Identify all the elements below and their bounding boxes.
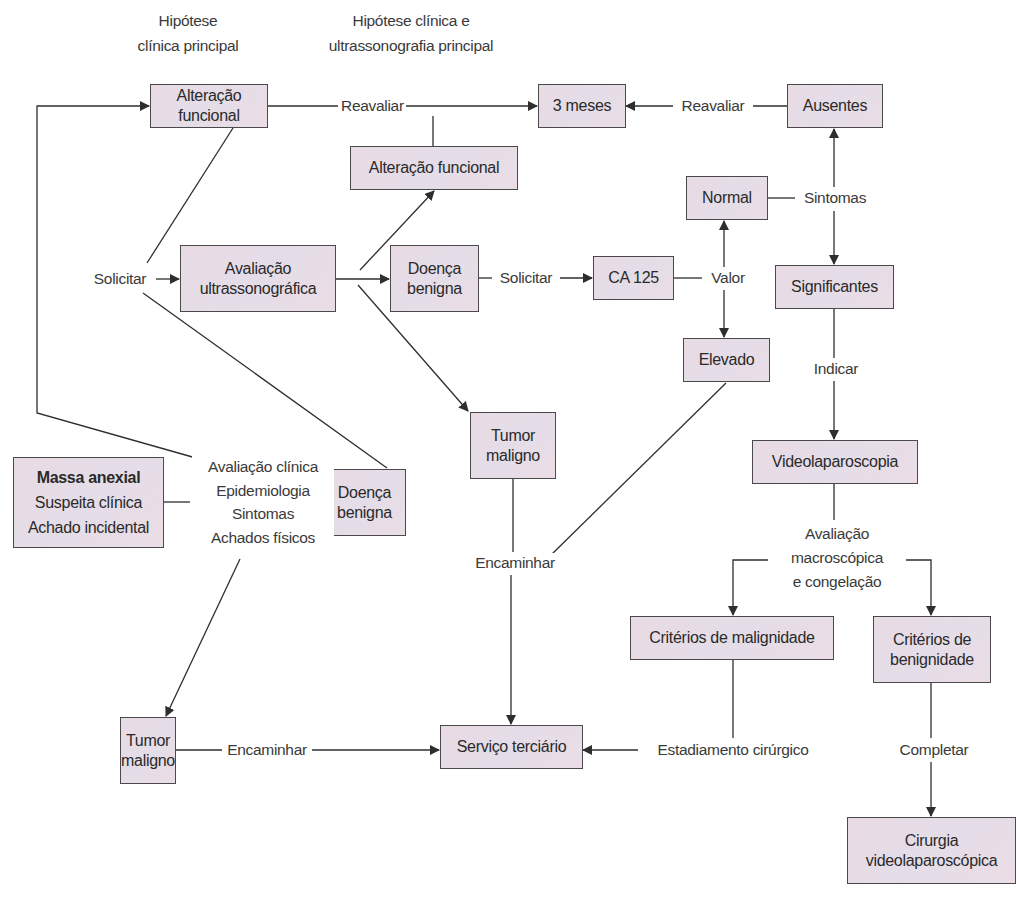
node-videolaparoscopia: Videolaparoscopia [752, 440, 918, 484]
node-ausentes: Ausentes [787, 84, 883, 128]
node-tumor-maligno-clinica: Tumor maligno [120, 717, 176, 784]
massa-anexial-title: Massa anexial [37, 465, 141, 490]
label-estadiamento-cirurgico: Estadiamento cirúrgico [638, 740, 828, 760]
node-doenca-benigna-us: Doença benigna [390, 245, 479, 312]
node-massa-anexial: Massa anexial Suspeita clínica Achado in… [13, 457, 164, 548]
flowchart-massa-anexial: Hipótese clínica principal Hipótese clín… [0, 0, 1020, 897]
node-normal: Normal [686, 176, 768, 220]
node-alteracao-funcional-clinica: Alteração funcional [150, 84, 268, 128]
label-avaliacao-clinica-block: Avaliação clínica Epidemiologia Sintomas… [192, 455, 334, 549]
header-hipotese-clinica: Hipótese clínica principal [108, 8, 268, 58]
label-reavaliar-left: Reavaliar [338, 96, 406, 116]
node-ca125: CA 125 [593, 256, 674, 300]
node-alteracao-funcional-us: Alteração funcional [350, 146, 518, 190]
label-sintomas: Sintomas [795, 188, 875, 208]
header-hipotese-ultrassonografia: Hipótese clínica e ultrassonografia prin… [300, 8, 522, 58]
node-significantes: Significantes [775, 265, 894, 309]
node-cirurgia-videolaparoscopica: Cirurgia videolaparoscópica [847, 817, 1016, 884]
label-encaminhar-bottom: Encaminhar [222, 740, 312, 760]
node-criterios-malignidade: Critérios de malignidade [630, 616, 834, 660]
label-reavaliar-right: Reavaliar [673, 96, 753, 116]
label-completar: Completar [888, 740, 980, 760]
label-avaliacao-macroscopica: Avaliação macroscópica e congelação [768, 522, 906, 594]
node-elevado: Elevado [683, 338, 770, 382]
node-doenca-benigna-clinica: Doença benigna [323, 469, 406, 536]
label-valor: Valor [702, 268, 754, 288]
label-indicar: Indicar [804, 359, 868, 379]
label-solicitar-us: Solicitar [84, 269, 156, 289]
label-encaminhar-middle: Encaminhar [464, 553, 566, 573]
massa-anexial-details: Suspeita clínica Achado incidental [28, 490, 149, 540]
node-tumor-maligno-us: Tumor maligno [470, 412, 556, 479]
node-servico-terciario: Serviço terciário [440, 725, 583, 769]
node-avaliacao-ultrassonografica: Avaliação ultrassonográfica [180, 245, 336, 312]
node-3-meses: 3 meses [538, 84, 626, 128]
label-solicitar-ca125: Solicitar [492, 268, 560, 288]
node-criterios-benignidade: Critérios de benignidade [873, 616, 991, 683]
